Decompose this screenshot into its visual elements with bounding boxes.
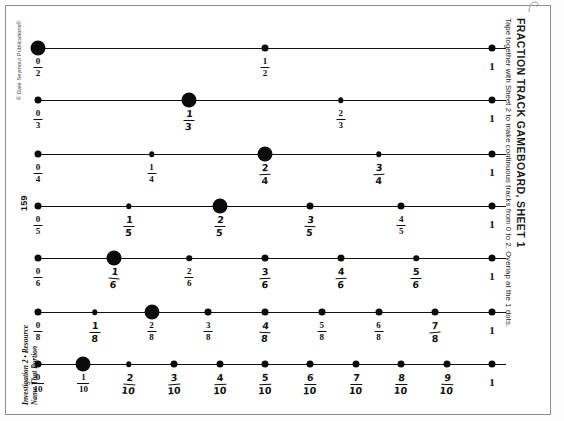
fraction-numerator: 1 bbox=[108, 267, 120, 278]
fraction-label: 78 bbox=[430, 321, 441, 344]
track-tick-dot[interactable] bbox=[376, 151, 382, 157]
track-tick-dot[interactable] bbox=[35, 255, 42, 262]
track-tick-label: 04 bbox=[34, 163, 43, 185]
fraction-label: 110 bbox=[77, 373, 89, 394]
fraction-label: 410 bbox=[213, 373, 227, 396]
track-tick-dot[interactable] bbox=[92, 309, 98, 315]
fraction-numerator: 0 bbox=[34, 267, 43, 277]
fraction-denominator: 4 bbox=[34, 175, 43, 185]
track-tick-dot[interactable] bbox=[489, 255, 496, 262]
whole-number-label: 1 bbox=[489, 376, 495, 388]
fraction-denominator: 10 bbox=[121, 385, 136, 396]
track-tick-dot[interactable] bbox=[489, 97, 496, 104]
fraction-numerator: 2 bbox=[336, 109, 345, 119]
track-tick-dot[interactable] bbox=[489, 45, 496, 52]
track-marker-dot[interactable] bbox=[76, 357, 91, 372]
track-tick-dot[interactable] bbox=[398, 361, 405, 368]
track-tick-label: 810 bbox=[395, 373, 408, 397]
track-tick-dot[interactable] bbox=[338, 97, 344, 103]
track-tick-dot[interactable] bbox=[35, 203, 42, 210]
fraction-denominator: 10 bbox=[32, 385, 44, 395]
track-tick-dot[interactable] bbox=[307, 203, 314, 210]
fraction-label: 08 bbox=[34, 321, 43, 342]
fraction-denominator: 5 bbox=[123, 228, 135, 238]
fraction-numerator: 2 bbox=[147, 321, 156, 331]
track-tick-dot[interactable] bbox=[216, 361, 223, 368]
track-marker-dot[interactable] bbox=[212, 199, 227, 214]
track-tick-label: 06 bbox=[34, 267, 43, 289]
fraction-denominator: 2 bbox=[261, 69, 270, 79]
fraction-denominator: 6 bbox=[410, 279, 422, 289]
track-tick-dot[interactable] bbox=[432, 309, 439, 316]
fraction-label: 45 bbox=[397, 215, 406, 236]
track-tick-dot[interactable] bbox=[149, 151, 155, 157]
track-tick-dot[interactable] bbox=[205, 309, 212, 316]
track-tick-dot[interactable] bbox=[187, 255, 193, 261]
fraction-label: 810 bbox=[394, 373, 409, 396]
track-tick-dot[interactable] bbox=[352, 361, 359, 368]
fraction-numerator: 0 bbox=[34, 57, 43, 67]
track-tick-dot[interactable] bbox=[35, 97, 42, 104]
track-tick-label: 12 bbox=[261, 57, 270, 79]
track-tick-dot[interactable] bbox=[126, 361, 132, 367]
fraction-label: 710 bbox=[348, 373, 363, 396]
fraction-denominator: 8 bbox=[430, 333, 441, 344]
track-tick-label: 1 bbox=[489, 109, 495, 125]
track-tick-dot[interactable] bbox=[337, 255, 344, 262]
track-tick-dot[interactable] bbox=[443, 361, 450, 368]
fraction-denominator: 5 bbox=[397, 227, 406, 237]
track-tick-label: 78 bbox=[430, 321, 441, 345]
fraction-label: 010 bbox=[32, 373, 44, 394]
fraction-denominator: 8 bbox=[204, 333, 213, 343]
fraction-numerator: 6 bbox=[304, 373, 318, 383]
track-tick-dot[interactable] bbox=[375, 309, 382, 316]
whole-number-label: 1 bbox=[489, 112, 495, 124]
fraction-numerator: 1 bbox=[261, 57, 270, 67]
fraction-denominator: 6 bbox=[34, 279, 43, 289]
fraction-label: 68 bbox=[374, 321, 383, 342]
track-tick-label: 410 bbox=[213, 373, 226, 397]
track-marker-dot[interactable] bbox=[182, 93, 197, 108]
track-tick-dot[interactable] bbox=[126, 203, 132, 209]
track-tick-dot[interactable] bbox=[318, 309, 325, 316]
fraction-denominator: 8 bbox=[34, 333, 43, 343]
track-tick-label: 610 bbox=[304, 373, 317, 397]
track-marker-dot[interactable] bbox=[258, 147, 273, 162]
fraction-numerator: 4 bbox=[260, 321, 272, 331]
track-tick-dot[interactable] bbox=[414, 255, 420, 261]
fraction-label: 28 bbox=[147, 321, 156, 342]
track-tick-dot[interactable] bbox=[398, 203, 405, 210]
track-tick-dot[interactable] bbox=[35, 151, 42, 158]
track-tick-dot[interactable] bbox=[171, 361, 178, 368]
track-tick-label: 18 bbox=[89, 321, 100, 345]
track-tick-label: 26 bbox=[185, 267, 194, 289]
track-marker-dot[interactable] bbox=[144, 305, 159, 320]
track-tick-label: 710 bbox=[349, 373, 362, 397]
track-tick-dot[interactable] bbox=[489, 151, 496, 158]
track-tick-dot[interactable] bbox=[262, 361, 269, 368]
track-line bbox=[38, 206, 506, 207]
track-tick-label: 210 bbox=[122, 373, 135, 397]
track-tick-dot[interactable] bbox=[489, 203, 496, 210]
track-tick-dot[interactable] bbox=[262, 309, 269, 316]
track-tick-dot[interactable] bbox=[262, 255, 269, 262]
fraction-denominator: 5 bbox=[304, 227, 316, 237]
fraction-label: 310 bbox=[168, 373, 181, 397]
whole-number-label: 1 bbox=[489, 324, 495, 336]
track-marker-dot[interactable] bbox=[31, 41, 46, 56]
track-tick-dot[interactable] bbox=[489, 309, 496, 316]
track-tick-dot[interactable] bbox=[489, 361, 496, 368]
track-marker-dot[interactable] bbox=[106, 251, 121, 266]
track-tick-label: 1 bbox=[489, 267, 495, 283]
fraction-label: 35 bbox=[304, 215, 317, 238]
track-tick-dot[interactable] bbox=[35, 361, 42, 368]
fraction-denominator: 8 bbox=[258, 333, 270, 343]
fraction-denominator: 10 bbox=[77, 385, 89, 395]
fraction-numerator: 1 bbox=[77, 373, 89, 383]
track-tick-label: 1 bbox=[489, 373, 495, 389]
track-tick-label: 35 bbox=[305, 215, 316, 239]
track-tick-dot[interactable] bbox=[262, 45, 269, 52]
track-tick-dot[interactable] bbox=[35, 309, 42, 316]
track-tick-dot[interactable] bbox=[307, 361, 314, 368]
fraction-denominator: 4 bbox=[259, 175, 270, 186]
